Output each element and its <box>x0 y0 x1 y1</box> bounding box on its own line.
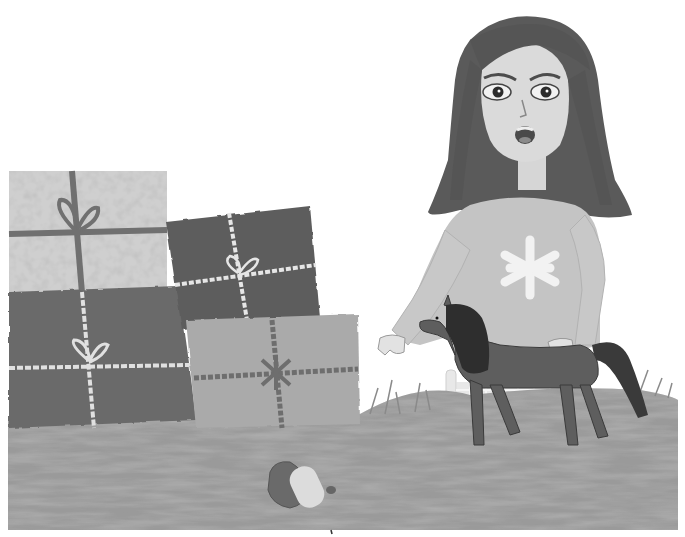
gift-dark-top <box>166 206 320 330</box>
small-mark <box>331 530 332 534</box>
gift-dark-bottom <box>9 286 196 428</box>
gift-light <box>186 314 360 428</box>
illustration <box>0 0 685 537</box>
gift-speckled <box>9 171 167 293</box>
